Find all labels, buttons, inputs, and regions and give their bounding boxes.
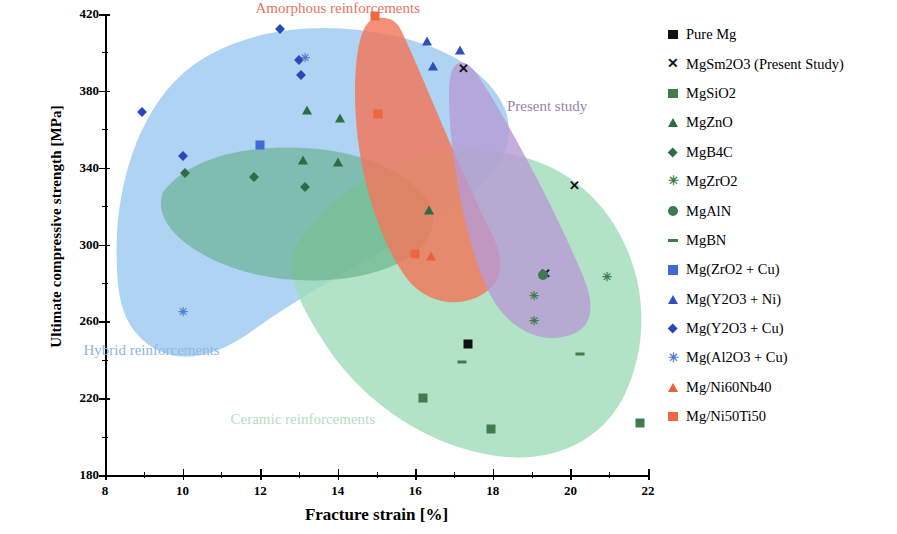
data-point — [455, 46, 465, 55]
legend-marker: ✳ — [660, 352, 686, 365]
x-tick-label: 10 — [163, 483, 203, 499]
x-tick-label: 12 — [240, 483, 280, 499]
x-axis-title: Fracture strain [%] — [105, 505, 648, 525]
x-tick-label: 14 — [318, 483, 358, 499]
legend-item[interactable]: MgAlN — [660, 196, 892, 225]
x-tick-minor — [299, 472, 300, 478]
data-point — [333, 157, 343, 166]
data-point: ✳ — [300, 52, 310, 64]
legend-marker — [660, 265, 686, 274]
x-tick-major — [338, 469, 340, 480]
legend-item[interactable]: ✕MgSm2O3 (Present Study) — [660, 49, 892, 78]
marker-circle — [668, 206, 679, 217]
marker-square — [668, 89, 677, 98]
y-tick-minor — [102, 360, 108, 361]
legend-item[interactable]: Mg(ZrO2 + Cu) — [660, 255, 892, 284]
marker-triangle — [668, 118, 678, 127]
y-tick-major — [99, 245, 110, 247]
data-point — [636, 419, 645, 428]
x-tick-major — [415, 469, 417, 480]
data-point — [457, 360, 466, 363]
y-tick-label: 300 — [59, 237, 99, 253]
legend-item[interactable]: ✳MgZrO2 — [660, 167, 892, 196]
legend-label: Pure Mg — [686, 26, 736, 43]
x-tick-label: 22 — [628, 483, 668, 499]
marker-diamond — [668, 147, 678, 157]
data-point: ✕ — [569, 178, 580, 191]
y-tick-minor — [102, 437, 108, 438]
legend-label: MgZnO — [686, 114, 733, 131]
x-tick-major — [570, 469, 572, 480]
x-tick-label: 16 — [395, 483, 435, 499]
legend-item[interactable]: Pure Mg — [660, 20, 892, 49]
y-axis-title: Ultimate compressive strength [MPa] — [48, 77, 65, 377]
legend-label: Mg(ZrO2 + Cu) — [686, 261, 780, 278]
marker-star: ✳ — [668, 352, 679, 365]
region-annotation: Ceramic reinforcements — [231, 411, 376, 428]
legend-item[interactable]: Mg(Y2O3 + Ni) — [660, 285, 892, 314]
y-tick-major — [99, 14, 110, 16]
x-tick-label: 18 — [473, 483, 513, 499]
legend-item[interactable]: MgSiO2 — [660, 79, 892, 108]
legend-label: MgSiO2 — [686, 85, 736, 102]
legend-item[interactable]: Mg/Ni60Nb40 — [660, 373, 892, 402]
legend-label: Mg/Ni50Ti50 — [686, 408, 766, 425]
legend-marker — [660, 149, 686, 156]
data-point — [335, 113, 345, 122]
x-tick-label: 20 — [550, 483, 590, 499]
region-annotation: Present study — [507, 98, 587, 115]
x-tick-minor — [454, 472, 455, 478]
data-point — [426, 252, 436, 261]
legend-item[interactable]: MgZnO — [660, 108, 892, 137]
legend-label: Mg(Y2O3 + Cu) — [686, 320, 784, 337]
legend-label: MgSm2O3 (Present Study) — [686, 56, 844, 73]
x-tick-major — [105, 469, 107, 480]
legend-label: MgAlN — [686, 203, 731, 220]
legend-item[interactable]: Mg(Y2O3 + Cu) — [660, 314, 892, 343]
data-point: ✳ — [602, 271, 612, 283]
data-point: ✳ — [529, 290, 539, 302]
data-point — [424, 205, 434, 214]
x-tick-minor — [144, 472, 145, 478]
region-annotation: Amorphous reinforcements — [255, 0, 420, 17]
legend-item[interactable]: MgB4C — [660, 138, 892, 167]
marker-star: ✳ — [668, 175, 679, 188]
marker-triangle — [668, 295, 678, 304]
region-overlays — [105, 14, 648, 475]
data-point — [411, 250, 420, 259]
y-tick-label: 180 — [59, 467, 99, 483]
y-tick-major — [99, 91, 110, 93]
y-tick-major — [99, 321, 110, 323]
legend-marker — [660, 118, 686, 127]
chart-root: Ultimate compressive strength [MPa] Frac… — [0, 0, 897, 534]
y-tick-minor — [102, 52, 108, 53]
x-tick-minor — [221, 472, 222, 478]
data-point: ✳ — [178, 306, 188, 318]
marker-square — [668, 30, 677, 39]
legend-item[interactable]: ✳Mg(Al2O3 + Cu) — [660, 343, 892, 372]
y-tick-label: 260 — [59, 313, 99, 329]
plot-area: 180220260300340380420 810121416182022 Am… — [105, 14, 648, 475]
legend-label: MgB4C — [686, 144, 733, 161]
data-point — [419, 394, 428, 403]
data-point — [374, 109, 383, 118]
chart-legend: Pure Mg✕MgSm2O3 (Present Study)MgSiO2MgZ… — [660, 20, 892, 431]
legend-label: Mg(Al2O3 + Cu) — [686, 349, 788, 366]
x-tick-major — [493, 469, 495, 480]
legend-item[interactable]: MgBN — [660, 226, 892, 255]
y-tick-label: 220 — [59, 390, 99, 406]
marker-triangle — [668, 383, 678, 392]
x-tick-minor — [609, 472, 610, 478]
data-point — [428, 61, 438, 70]
y-tick-major — [99, 168, 110, 170]
legend-marker — [660, 295, 686, 304]
y-tick-label: 420 — [59, 6, 99, 22]
legend-label: Mg/Ni60Nb40 — [686, 379, 771, 396]
y-tick-minor — [102, 129, 108, 130]
y-tick-minor — [102, 206, 108, 207]
legend-marker: ✕ — [660, 57, 686, 71]
data-point — [298, 155, 308, 164]
legend-label: MgBN — [686, 232, 726, 249]
data-point — [576, 352, 585, 355]
legend-item[interactable]: Mg/Ni50Ti50 — [660, 402, 892, 431]
